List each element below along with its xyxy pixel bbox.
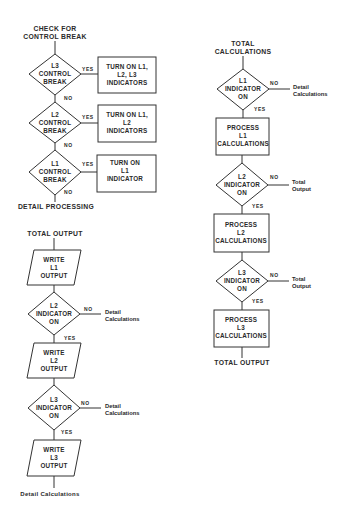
text-line: L2 [106, 119, 148, 127]
text-line: CONTROL [39, 70, 72, 78]
text-line: Output [292, 186, 311, 193]
text-line: L1 [217, 132, 269, 140]
yes-label: YES [82, 161, 94, 167]
end-label-detail-processing: DETAIL PROCESSING [18, 203, 94, 211]
text-line: BREAK [39, 78, 72, 86]
text-line: OUTPUT [40, 365, 67, 373]
no-label: NO [270, 272, 279, 278]
text-line: OUTPUT [40, 462, 67, 470]
text-line: L3 [224, 269, 260, 277]
process-text-right-l1: PROCESS L1 CALCULATIONS [217, 124, 269, 148]
text-line: PROCESS [215, 221, 267, 229]
decision-text-right-l3-indicator: L3 INDICATOR ON [224, 269, 260, 293]
text-line: PROCESS [215, 316, 267, 324]
output-text-write-l3: WRITE L3 OUTPUT [40, 446, 67, 470]
start-label-total-output: TOTAL OUTPUT [27, 230, 82, 238]
yes-label: YES [82, 66, 94, 72]
text-line: CALCULATIONS [217, 140, 269, 148]
text-line: L3 [40, 454, 67, 462]
yes-label: YES [61, 429, 73, 435]
no-target-total-output: Total Output [292, 276, 311, 289]
text-line: Calculations [293, 91, 327, 98]
text-line: ON [224, 285, 260, 293]
no-target-detail-calculations: Detail Calculations [293, 84, 327, 97]
no-label: NO [64, 189, 73, 195]
text-line: OUTPUT [40, 272, 67, 280]
no-label: NO [64, 142, 73, 148]
text-line: INDICATOR [36, 310, 72, 318]
text-line: INDICATOR [224, 181, 260, 189]
text-line: INDICATOR [36, 404, 72, 412]
end-label-total-output: TOTAL OUTPUT [214, 359, 269, 367]
text-line: INDICATOR [107, 175, 143, 183]
text-line: L1 [107, 167, 143, 175]
text-line: CALCULATIONS [215, 332, 267, 340]
yes-label: YES [252, 298, 264, 304]
text-line: CONTROL [39, 168, 72, 176]
no-label: NO [270, 80, 279, 86]
decision-text-l3-control-break: L3 CONTROL BREAK [39, 62, 72, 86]
text-line: ON [36, 412, 72, 420]
text-line: PROCESS [217, 124, 269, 132]
text-line: BREAK [39, 127, 72, 135]
no-label: NO [81, 400, 90, 406]
end-label-detail-calculations: Detail Calculations [20, 490, 79, 498]
text-line: L2 [215, 229, 267, 237]
process-text-right-l2: PROCESS L2 CALCULATIONS [215, 221, 267, 245]
no-label: NO [84, 306, 93, 312]
action-text-turn-on-l1: TURN ON L1 INDICATOR [107, 159, 143, 183]
yes-label: YES [82, 114, 94, 120]
text-line: Calculations [105, 410, 139, 417]
text-line: L3 [36, 396, 72, 404]
yes-label: YES [252, 203, 264, 209]
action-text-turn-on-l1-l2: TURN ON L1, L2 INDICATORS [106, 111, 148, 135]
text-line: CALCULATIONS [215, 237, 267, 245]
text-line: BREAK [39, 176, 72, 184]
text-line: TOTAL [215, 40, 272, 48]
no-target-total-output: Total Output [292, 179, 311, 192]
no-target-detail-calculations: Detail Calculations [105, 403, 139, 416]
text-line: WRITE [40, 446, 67, 454]
start-label-check-control-break: CHECK FOR CONTROL BREAK [23, 25, 86, 41]
text-line: L2, L3 [106, 71, 148, 79]
text-line: ON [36, 318, 72, 326]
text-line: L1 [40, 264, 67, 272]
decision-text-right-l1-indicator: L1 INDICATOR ON [225, 77, 261, 101]
text-line: WRITE [40, 256, 67, 264]
text-line: TURN ON [107, 159, 143, 167]
output-text-write-l2: WRITE L2 OUTPUT [40, 349, 67, 373]
text-line: L2 [224, 173, 260, 181]
text-line: L3 [39, 62, 72, 70]
decision-text-l1-control-break: L1 CONTROL BREAK [39, 160, 72, 184]
start-line-2: CONTROL BREAK [23, 33, 86, 41]
start-label-total-calculations: TOTAL CALCULATIONS [215, 40, 272, 56]
yes-label: YES [254, 106, 266, 112]
text-line: L1 [225, 77, 261, 85]
text-line: CALCULATIONS [215, 48, 272, 56]
text-line: INDICATORS [106, 79, 148, 87]
text-line: ON [225, 93, 261, 101]
text-line: TURN ON L1, [106, 63, 148, 71]
no-label: NO [64, 95, 73, 101]
text-line: L2 [36, 302, 72, 310]
text-line: WRITE [40, 349, 67, 357]
text-line: L3 [215, 324, 267, 332]
text-line: Calculations [105, 316, 139, 323]
yes-label: YES [64, 335, 76, 341]
text-line: CONTROL [39, 119, 72, 127]
no-label: NO [270, 174, 279, 180]
action-text-turn-on-l1-l2-l3: TURN ON L1, L2, L3 INDICATORS [106, 63, 148, 87]
text-line: INDICATOR [224, 277, 260, 285]
decision-text-l2-control-break: L2 CONTROL BREAK [39, 111, 72, 135]
text-line: L2 [39, 111, 72, 119]
text-line: L1 [39, 160, 72, 168]
start-line-1: CHECK FOR [23, 25, 86, 33]
process-text-right-l3: PROCESS L3 CALCULATIONS [215, 316, 267, 340]
decision-text-l3-indicator: L3 INDICATOR ON [36, 396, 72, 420]
text-line: L2 [40, 357, 67, 365]
text-line: INDICATORS [106, 127, 148, 135]
decision-text-l2-indicator: L2 INDICATOR ON [36, 302, 72, 326]
text-line: Output [292, 283, 311, 290]
no-target-detail-calculations: Detail Calculations [105, 309, 139, 322]
decision-text-right-l2-indicator: L2 INDICATOR ON [224, 173, 260, 197]
